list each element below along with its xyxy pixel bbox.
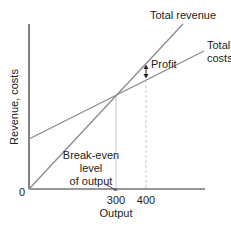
origin-label: 0 [19,186,25,198]
x-tick-400: 400 [137,194,155,206]
svg-text:×: × [113,185,118,194]
total-costs-label-line1: Total [207,39,230,51]
total-revenue-label: Total revenue [150,9,216,21]
breakeven-label-line3: of output [70,175,113,187]
total-revenue-line [29,24,183,189]
x-tick-300: 300 [107,194,125,206]
y-axis-label: Revenue, costs [8,69,20,145]
break-even-chart: × Total revenue Total costs Profit Break… [0,0,231,226]
x-axis-label: Output [99,207,132,219]
profit-label: Profit [151,58,177,70]
breakeven-label-line1: Break-even [63,149,119,161]
total-costs-label-line2: costs [207,52,231,64]
breakeven-label-line2: level [80,162,103,174]
total-costs-line [29,51,204,139]
profit-arrow-icon [144,65,149,79]
